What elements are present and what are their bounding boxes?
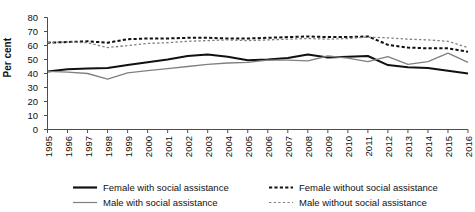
legend-item-label: Female without social assistance [299, 182, 438, 193]
x-axis-tick-label: 1998 [103, 136, 114, 157]
y-axis-tick-label: 20 [14, 96, 38, 107]
x-axis-tick-label: 2007 [283, 136, 294, 157]
legend-item-label: Male without social assistance [299, 197, 427, 208]
y-axis-tick-label: 10 [14, 110, 38, 121]
y-axis-tick-label: 40 [14, 68, 38, 79]
x-axis-tick-label: 1996 [63, 136, 74, 157]
legend-line-swatch [72, 183, 98, 192]
y-axis-tick-label: 80 [14, 12, 38, 23]
y-axis-tick-label: 70 [14, 26, 38, 37]
x-axis-tick-label: 2014 [423, 136, 434, 157]
legend-item-label: Male with social assistance [103, 197, 218, 208]
x-axis-tick-label: 2004 [223, 136, 234, 157]
y-axis-tick-label: 50 [14, 54, 38, 65]
y-axis-tick-label: 30 [14, 82, 38, 93]
x-axis-tick-label: 2003 [203, 136, 214, 157]
x-axis-tick-label: 2000 [143, 136, 154, 157]
x-axis-tick-label: 2008 [303, 136, 314, 157]
legend-item[interactable]: Female with social assistance [72, 182, 229, 193]
chart-axes [44, 18, 468, 134]
x-axis-tick-label: 1997 [83, 136, 94, 157]
legend-item-label: Female with social assistance [103, 182, 229, 193]
x-axis-tick-label: 2010 [343, 136, 354, 157]
x-axis-tick-label: 2016 [463, 136, 474, 157]
legend-line-swatch [268, 198, 294, 207]
x-axis-tick-label: 2005 [243, 136, 254, 157]
legend-item[interactable]: Female without social assistance [268, 182, 438, 193]
y-axis-tick-label: 60 [14, 40, 38, 51]
legend-item[interactable]: Male with social assistance [72, 197, 218, 208]
chart-legend: Female with social assistanceMale with s… [0, 176, 475, 212]
x-axis-tick-label: 2011 [363, 136, 374, 156]
x-axis-tick-label: 1995 [43, 136, 54, 157]
x-axis-tick-label: 2015 [443, 136, 454, 157]
legend-item[interactable]: Male without social assistance [268, 197, 427, 208]
x-axis-tick-label: 2012 [383, 136, 394, 157]
chart-figure: Per cent 01020304050607080 1995199619971… [0, 0, 475, 212]
series-line [48, 55, 469, 74]
x-axis-tick-label: 2001 [163, 136, 174, 157]
y-axis-tick-label: 0 [14, 124, 38, 135]
x-axis-tick-label: 1999 [123, 136, 134, 157]
series-line [48, 36, 469, 51]
legend-line-swatch [268, 183, 294, 192]
legend-line-swatch [72, 198, 98, 207]
x-axis-tick-label: 2002 [183, 136, 194, 157]
x-axis-tick-label: 2013 [403, 136, 414, 157]
x-axis-tick-label: 2009 [323, 136, 334, 157]
x-axis-tick-label: 2006 [263, 136, 274, 157]
chart-series [48, 36, 469, 79]
